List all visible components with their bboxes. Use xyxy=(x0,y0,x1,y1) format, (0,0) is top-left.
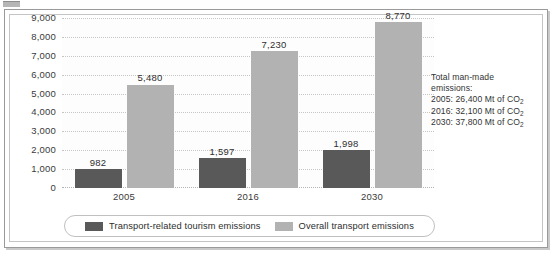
y-tick-label: 1,000 xyxy=(31,164,56,174)
chart-legend: Transport-related tourism emissionsOvera… xyxy=(64,215,435,237)
bar-value-label: 5,480 xyxy=(119,72,182,83)
y-tick-label: 4,000 xyxy=(31,107,56,117)
y-tick-label: 7,000 xyxy=(31,51,56,61)
cropped-edge-artifact xyxy=(3,1,20,7)
bar-value-label: 7,230 xyxy=(243,39,306,50)
bar-value-label: 1,597 xyxy=(191,146,254,157)
subscript: 2 xyxy=(520,110,524,117)
bar xyxy=(127,85,174,189)
bar-value-label: 1,998 xyxy=(315,138,378,149)
x-tick-label: 2005 xyxy=(62,191,186,202)
annotation-entry: 2030: 37,800 Mt of CO2 xyxy=(431,117,539,128)
subscript: 2 xyxy=(520,98,524,105)
legend-label: Transport-related tourism emissions xyxy=(109,221,260,231)
y-tick-label: 9,000 xyxy=(31,13,56,23)
x-tick-label: 2016 xyxy=(186,191,310,202)
y-tick-label: 0 xyxy=(51,183,56,193)
annotation-total-manmade-emissions: Total man-madeemissions:2005: 26,400 Mt … xyxy=(431,72,539,128)
legend-item[interactable]: Transport-related tourism emissions xyxy=(85,221,260,231)
annotation-entry: 2016: 32,100 Mt of CO2 xyxy=(431,106,539,117)
legend-swatch-icon xyxy=(275,222,293,231)
annotation-line: Total man-made xyxy=(431,72,539,83)
bar xyxy=(251,51,298,188)
plot-wrapper: 9,0008,0007,0006,0005,0004,0003,0002,000… xyxy=(14,18,434,214)
bar xyxy=(375,22,422,188)
y-tick-label: 8,000 xyxy=(31,32,56,42)
y-tick-label: 5,000 xyxy=(31,89,56,99)
y-tick-label: 6,000 xyxy=(31,70,56,80)
y-tick-label: 3,000 xyxy=(31,126,56,136)
chart-screenshot: 9,0008,0007,0006,0005,0004,0003,0002,000… xyxy=(0,0,556,254)
legend-swatch-icon xyxy=(85,222,103,231)
x-axis-labels: 200520162030 xyxy=(62,189,434,205)
bar-value-label: 982 xyxy=(67,157,130,168)
bar xyxy=(75,169,122,188)
plot-area: 9825,4801,5977,2301,9988,770 xyxy=(62,18,434,188)
annotation-entry: 2005: 26,400 Mt of CO2 xyxy=(431,94,539,105)
bar xyxy=(199,158,246,188)
bar-value-label: 8,770 xyxy=(367,10,430,21)
x-tick-label: 2030 xyxy=(310,191,434,202)
bar xyxy=(323,150,370,188)
y-axis-labels: 9,0008,0007,0006,0005,0004,0003,0002,000… xyxy=(14,18,60,188)
legend-label: Overall transport emissions xyxy=(299,221,414,231)
annotation-line: emissions: xyxy=(431,83,539,94)
y-tick-label: 2,000 xyxy=(31,145,56,155)
legend-item[interactable]: Overall transport emissions xyxy=(275,221,414,231)
subscript: 2 xyxy=(520,121,524,128)
